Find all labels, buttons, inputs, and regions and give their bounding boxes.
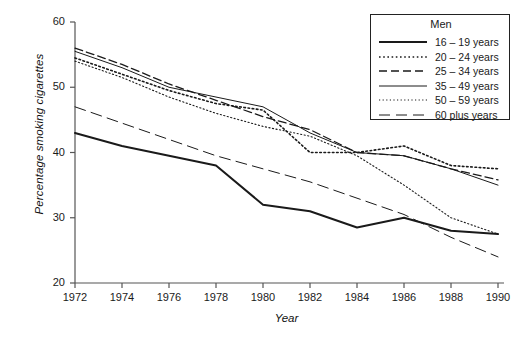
x-tick-1972: 1972	[55, 291, 95, 303]
x-tick-1976: 1976	[149, 291, 189, 303]
x-tick-1978: 1978	[196, 291, 236, 303]
series-line-6	[75, 107, 498, 257]
chart-legend: Men 16 – 19 years20 – 24 years25 – 34 ye…	[370, 14, 510, 120]
x-tick-1988: 1988	[431, 291, 471, 303]
legend-swatch-3	[377, 64, 429, 78]
legend-swatch-1	[377, 35, 429, 49]
y-tick-60: 60	[35, 15, 65, 27]
legend-swatch-2	[377, 50, 429, 64]
legend-swatch-5	[377, 93, 429, 107]
legend-item-2[interactable]: 20 – 24 years	[377, 50, 505, 64]
chart-figure: Percentage smoking cigarettes Year 20304…	[0, 0, 524, 341]
x-tick-1974: 1974	[102, 291, 142, 303]
legend-item-5[interactable]: 50 – 59 years	[377, 93, 505, 107]
legend-label-2: 20 – 24 years	[435, 50, 499, 64]
y-tick-20: 20	[35, 276, 65, 288]
legend-swatch-4	[377, 79, 429, 93]
legend-title: Men	[371, 18, 511, 30]
legend-label-3: 25 – 34 years	[435, 64, 499, 78]
legend-label-6: 60 plus years	[435, 108, 497, 122]
y-tick-50: 50	[35, 80, 65, 92]
legend-item-4[interactable]: 35 – 49 years	[377, 79, 505, 93]
legend-swatch-6	[377, 108, 429, 122]
legend-label-1: 16 – 19 years	[435, 35, 499, 49]
x-tick-1982: 1982	[290, 291, 330, 303]
x-tick-1986: 1986	[384, 291, 424, 303]
legend-label-4: 35 – 49 years	[435, 79, 499, 93]
legend-item-3[interactable]: 25 – 34 years	[377, 64, 505, 78]
legend-item-1[interactable]: 16 – 19 years	[377, 35, 505, 49]
x-tick-1990: 1990	[478, 291, 518, 303]
x-tick-1984: 1984	[337, 291, 377, 303]
y-tick-40: 40	[35, 146, 65, 158]
legend-label-5: 50 – 59 years	[435, 93, 499, 107]
series-line-1	[75, 133, 498, 234]
legend-item-6[interactable]: 60 plus years	[377, 108, 505, 122]
y-tick-30: 30	[35, 211, 65, 223]
x-axis-label: Year	[75, 312, 498, 324]
x-tick-1980: 1980	[243, 291, 283, 303]
